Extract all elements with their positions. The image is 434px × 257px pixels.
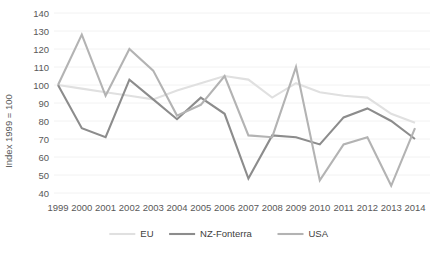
y-tick-label: 50 — [38, 170, 49, 181]
x-tick-label: 2007 — [238, 202, 259, 213]
y-tick-label: 130 — [33, 26, 49, 37]
x-tick-label: 2002 — [119, 202, 140, 213]
y-tick-label: 140 — [33, 8, 49, 19]
y-tick-label: 70 — [38, 134, 49, 145]
y-tick-label: 90 — [38, 98, 49, 109]
x-tick-label: 2011 — [333, 202, 353, 213]
y-tick-label: 60 — [38, 152, 49, 163]
y-tick-label: 100 — [33, 80, 49, 91]
x-tick-label: 2005 — [190, 202, 211, 213]
x-tick-label: 2009 — [285, 202, 306, 213]
line-chart: 405060708090100110120130140 199920002001… — [0, 0, 434, 257]
legend-label: EU — [140, 228, 153, 239]
x-tick-label: 2013 — [381, 202, 402, 213]
chart-background — [0, 0, 434, 257]
y-tick-label: 80 — [38, 116, 49, 127]
x-tick-label: 2004 — [166, 202, 187, 213]
x-tick-label: 2006 — [214, 202, 235, 213]
chart-canvas: 405060708090100110120130140 199920002001… — [0, 0, 434, 257]
x-tick-label: 2010 — [309, 202, 330, 213]
x-tick-label: 2014 — [404, 202, 425, 213]
legend-label: USA — [309, 228, 329, 239]
x-tick-label: 2000 — [71, 202, 92, 213]
y-tick-label: 120 — [33, 44, 49, 55]
y-axis-title: Index 1999 = 100 — [3, 94, 14, 168]
legend-label: NZ-Fonterra — [200, 228, 252, 239]
y-tick-label: 110 — [34, 62, 49, 73]
y-tick-label: 40 — [38, 188, 49, 199]
x-tick-label: 2012 — [357, 202, 378, 213]
x-tick-label: 2008 — [262, 202, 283, 213]
x-tick-label: 2003 — [143, 202, 164, 213]
x-tick-label: 2001 — [95, 202, 116, 213]
x-tick-label: 1999 — [47, 202, 68, 213]
